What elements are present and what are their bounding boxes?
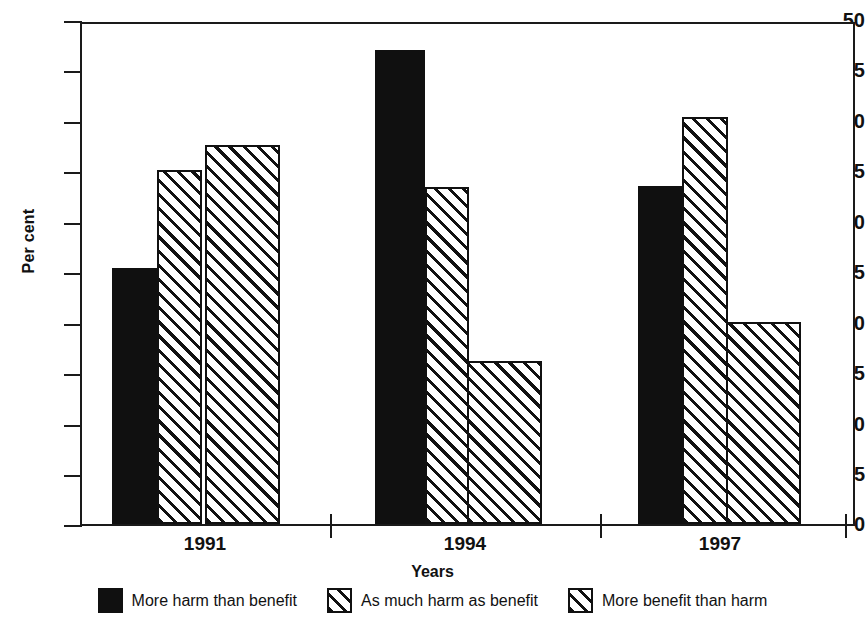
y-axis-title: Per cent [20, 191, 38, 291]
bar-1991-more-benefit-than-harm [205, 145, 280, 524]
hatched-swatch-icon [568, 588, 593, 613]
bar-1994-more-harm-than-benefit [375, 50, 425, 524]
x-group-separator-2 [600, 514, 602, 538]
bar-1994-as-much-harm-as-benefit [425, 187, 469, 524]
chart-page: 50 45 40 35 30 25 20 15 10 5 0 Per cent [0, 0, 865, 641]
x-label-1997: 1997 [665, 534, 775, 553]
x-group-separator-1 [330, 514, 332, 538]
solid-black-swatch-icon [98, 588, 123, 613]
chart-legend: More harm than benefit As much harm as b… [0, 588, 865, 613]
x-label-1994: 1994 [410, 534, 520, 553]
x-axis-title: Years [0, 563, 865, 581]
legend-label-as-much-harm-as-benefit: As much harm as benefit [361, 592, 538, 610]
bar-1997-more-harm-than-benefit [638, 186, 682, 524]
x-group-separator-3 [845, 514, 847, 538]
legend-label-more-harm-than-benefit: More harm than benefit [132, 592, 297, 610]
bar-1991-as-much-harm-as-benefit [157, 170, 202, 524]
bar-1997-as-much-harm-as-benefit [682, 117, 728, 524]
legend-label-more-benefit-than-harm: More benefit than harm [602, 592, 767, 610]
legend-item-more-harm-than-benefit: More harm than benefit [98, 588, 297, 613]
bar-1994-more-benefit-than-harm [467, 361, 542, 524]
hatched-swatch-icon [327, 588, 352, 613]
bar-1991-more-harm-than-benefit [112, 268, 157, 524]
x-label-1991: 1991 [150, 534, 260, 553]
legend-item-as-much-harm-as-benefit: As much harm as benefit [327, 588, 538, 613]
bar-1997-more-benefit-than-harm [726, 322, 801, 524]
plot-area [80, 22, 855, 526]
legend-item-more-benefit-than-harm: More benefit than harm [568, 588, 767, 613]
